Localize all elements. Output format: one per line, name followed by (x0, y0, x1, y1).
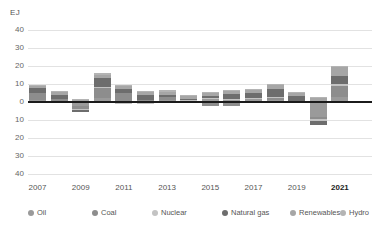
bar-segment-renewables (115, 86, 132, 89)
bar-segment-natural-gas (267, 89, 284, 97)
bar-2009 (72, 0, 89, 226)
bar-segment-hydro (180, 95, 197, 96)
bar-segment-renewables (202, 92, 219, 95)
bar-segment-coal (159, 97, 176, 100)
bar-segment-coal (245, 98, 262, 99)
energy-change-bar-chart: EJ 40302010010203040 2007200920112013201… (0, 0, 378, 226)
bar-segment-hydro (245, 89, 262, 90)
legend-swatch-icon (152, 210, 158, 216)
x-axis-tick-label-2021: 2021 (320, 183, 360, 192)
bar-segment-nuclear (223, 99, 240, 100)
bar-segment-renewables (223, 91, 240, 94)
bar-segment-coal (94, 87, 111, 98)
bar-segment-natural-gas (72, 110, 89, 112)
legend-swatch-icon (222, 210, 228, 216)
legend-item-label: Oil (37, 209, 46, 217)
y-axis-tick-label: 10 (2, 116, 24, 124)
bar-segment-renewables (245, 90, 262, 94)
bar-segment-renewables (180, 96, 197, 99)
bar-segment-coal (29, 93, 46, 100)
bar-segment-hydro (267, 84, 284, 85)
y-axis-tick-label: 20 (2, 62, 24, 70)
bar-segment-renewables (159, 92, 176, 95)
bar-segment-natural-gas (310, 121, 327, 125)
legend-item-label: Coal (101, 209, 116, 217)
legend-item-oil[interactable]: Oil (28, 209, 46, 217)
bar-2013 (159, 0, 176, 226)
chart-legend: OilCoalNuclearNatural gasRenewablesHydro (0, 205, 378, 221)
bar-segment-natural-gas (94, 78, 111, 87)
legend-item-renewables[interactable]: Renewables (290, 209, 340, 217)
bar-segment-natural-gas (159, 95, 176, 98)
bar-segment-coal (331, 86, 348, 97)
bar-2021 (331, 0, 348, 226)
bar-segment-nuclear (202, 98, 219, 99)
bar-segment-hydro (29, 85, 46, 86)
bar-segment-hydro (288, 92, 305, 93)
bar-segment-natural-gas (115, 89, 132, 93)
bar-segment-renewables (29, 86, 46, 88)
plot-area: 40302010010203040 (0, 0, 378, 226)
bar-segment-renewables (94, 75, 111, 78)
legend-item-natural-gas[interactable]: Natural gas (222, 209, 269, 217)
bar-2014 (180, 0, 197, 226)
bar-2015 (202, 0, 219, 226)
y-axis-tick-label: 40 (2, 170, 24, 178)
zero-axis-line (28, 101, 372, 103)
bar-2016 (223, 0, 240, 226)
x-axis-tick-label-2015: 2015 (190, 183, 230, 192)
bar-segment-natural-gas (180, 99, 197, 100)
legend-item-label: Renewables (299, 209, 340, 217)
bar-segment-coal (115, 93, 132, 101)
y-axis-tick-label: 0 (2, 98, 24, 106)
x-axis-tick-label-2009: 2009 (61, 183, 101, 192)
legend-item-nuclear[interactable]: Nuclear (152, 209, 187, 217)
bar-2012 (137, 0, 154, 226)
bar-segment-renewables (137, 92, 154, 95)
bar-segment-hydro (331, 66, 348, 67)
x-axis-tick-label-2013: 2013 (147, 183, 187, 192)
y-axis-tick-label: 40 (2, 26, 24, 34)
bar-2019 (288, 0, 305, 226)
legend-swatch-icon (290, 210, 296, 216)
y-axis-tick-label: 30 (2, 44, 24, 52)
bar-segment-renewables (51, 92, 68, 94)
legend-item-hydro[interactable]: Hydro (340, 209, 369, 217)
bar-2010 (94, 0, 111, 226)
legend-item-label: Nuclear (161, 209, 187, 217)
legend-item-label: Hydro (349, 209, 369, 217)
bar-segment-coal (267, 97, 284, 99)
bar-segment-natural-gas (137, 95, 154, 100)
y-axis-tick-label: 30 (2, 152, 24, 160)
x-axis-tick-label-2007: 2007 (18, 183, 58, 192)
bar-2007 (29, 0, 46, 226)
bar-2008 (51, 0, 68, 226)
bar-segment-hydro (94, 73, 111, 75)
y-axis-tick-label: 10 (2, 80, 24, 88)
bar-segment-nuclear (267, 97, 284, 98)
bar-segment-natural-gas (51, 95, 68, 99)
bar-segment-nuclear (331, 84, 348, 85)
bar-segment-hydro (115, 85, 132, 86)
bar-segment-nuclear (94, 87, 111, 88)
bar-segment-natural-gas (331, 76, 348, 85)
bar-2011 (115, 0, 132, 226)
legend-swatch-icon (28, 210, 34, 216)
x-axis-tick-label-2019: 2019 (277, 183, 317, 192)
bar-segment-natural-gas (202, 96, 219, 98)
bar-segment-hydro (51, 91, 68, 92)
legend-swatch-icon (92, 210, 98, 216)
bar-segment-natural-gas (29, 88, 46, 93)
bar-segment-renewables (331, 67, 348, 76)
legend-item-label: Natural gas (231, 209, 269, 217)
bar-2018 (267, 0, 284, 226)
bar-segment-renewables (288, 92, 305, 96)
legend-item-coal[interactable]: Coal (92, 209, 116, 217)
bar-segment-hydro (310, 97, 327, 98)
y-axis-tick-label: 20 (2, 134, 24, 142)
bar-segment-oil (310, 102, 327, 117)
bar-2017 (245, 0, 262, 226)
bar-2020 (310, 0, 327, 226)
bar-segment-hydro (72, 99, 89, 100)
bar-segment-hydro (159, 90, 176, 92)
